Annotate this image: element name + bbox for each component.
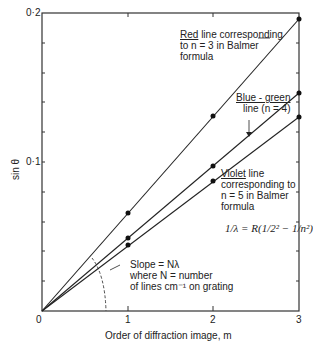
- x-tick-0: 0: [36, 314, 42, 325]
- x-tick-3: 3: [296, 314, 302, 325]
- y-ticks: [42, 43, 299, 281]
- y-tick-0-2: 0·2: [26, 7, 40, 18]
- violet-annotation: Violet line corresponding to n = 5 in Ba…: [221, 168, 296, 212]
- x-tick-1: 1: [125, 314, 131, 325]
- y-axis-label: sin θ: [10, 159, 21, 180]
- x-tick-2: 2: [210, 314, 216, 325]
- slope-annotation: Slope = Nλ where N = number of lines cm⁻…: [130, 259, 233, 292]
- red-annotation: Red line corresponding to n = 3 in Balme…: [180, 29, 283, 62]
- balmer-formula: 1/λ = R(1/2² − 1/n²): [225, 223, 313, 234]
- y-tick-0-1: 0·1: [26, 156, 40, 167]
- blue-green-annotation: Blue - green line (n = 4): [236, 92, 290, 114]
- x-axis-label: Order of diffraction image, m: [105, 330, 232, 341]
